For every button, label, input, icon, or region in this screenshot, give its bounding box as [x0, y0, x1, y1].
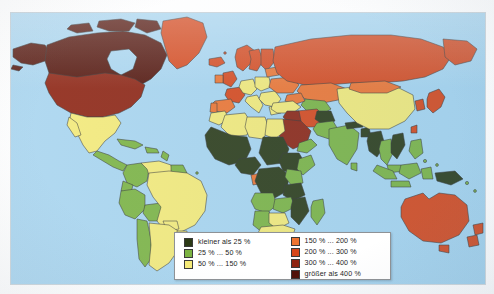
legend-item: 300 % ... 400 %: [291, 259, 390, 269]
region-aleutians: [11, 65, 23, 71]
island-dot-2: [436, 164, 439, 167]
island-dot-1: [423, 159, 426, 162]
region-greenland: [161, 17, 207, 69]
region-india: [329, 125, 359, 165]
region-lesser-antilles: [161, 151, 169, 161]
region-sri-lanka: [351, 163, 357, 171]
region-ireland: [215, 75, 223, 83]
island-dot-6: [224, 52, 227, 55]
legend-swatch-icon: [291, 237, 300, 246]
region-canada-arctic-3: [67, 23, 93, 33]
region-new-zealand-north: [473, 223, 483, 235]
region-canada-arctic-1: [97, 19, 135, 31]
legend-item: größer als 400 %: [291, 269, 390, 279]
legend-item: 50 % ... 150 %: [184, 259, 283, 269]
map-legend: kleiner als 25 % 25 % ... 50 % 50 % ... …: [174, 232, 391, 280]
region-new-zealand-south: [467, 235, 479, 247]
island-dot-4: [474, 190, 477, 193]
legend-label: 150 % ... 200 %: [305, 237, 357, 246]
legend-item: kleiner als 25 %: [184, 237, 283, 247]
legend-label: kleiner als 25 %: [198, 238, 250, 247]
legend-label: größer als 400 %: [305, 270, 361, 279]
legend-label: 300 % ... 400 %: [305, 259, 357, 268]
region-united-kingdom: [223, 71, 237, 87]
region-iceland: [209, 57, 225, 67]
region-angola: [251, 193, 277, 213]
legend-swatch-icon: [184, 249, 193, 258]
region-borneo: [399, 163, 421, 179]
region-madagascar: [311, 199, 325, 225]
legend-swatch-icon: [291, 259, 300, 268]
legend-item: 150 % ... 200 %: [291, 237, 390, 247]
legend-column-right: 150 % ... 200 % 200 % ... 300 % 300 % ..…: [283, 237, 390, 279]
legend-column-left: kleiner als 25 % 25 % ... 50 % 50 % ... …: [175, 237, 283, 279]
region-korea: [415, 99, 425, 111]
region-central-america: [93, 151, 127, 171]
region-australia: [401, 193, 469, 243]
region-java: [391, 181, 411, 187]
region-tasmania: [439, 245, 449, 253]
world-map-plate: kleiner als 25 % 25 % ... 50 % 50 % ... …: [11, 13, 485, 284]
region-chile: [137, 219, 151, 267]
region-japan: [427, 89, 445, 113]
legend-swatch-icon: [184, 260, 193, 269]
region-russia: [273, 35, 451, 85]
scanned-figure-page: kleiner als 25 % 25 % ... 50 % 50 % ... …: [0, 0, 494, 294]
region-taiwan: [411, 125, 417, 133]
region-papua-new-guinea: [435, 171, 463, 185]
region-peru: [119, 189, 145, 219]
region-philippines: [409, 139, 423, 159]
island-dot-5: [196, 172, 199, 175]
legend-item: 200 % ... 300 %: [291, 248, 390, 258]
region-sulawesi: [421, 167, 433, 179]
region-nigeria: [235, 157, 261, 175]
region-libya: [245, 117, 269, 139]
island-dot-3: [465, 181, 468, 184]
region-portugal: [210, 103, 217, 113]
legend-label: 25 % ... 50 %: [198, 249, 242, 258]
region-vietnam: [391, 133, 405, 159]
legend-item: 25 % ... 50 %: [184, 248, 283, 258]
legend-label: 200 % ... 300 %: [305, 248, 357, 257]
legend-swatch-icon: [184, 238, 193, 247]
region-cuba: [117, 139, 143, 149]
region-hispaniola: [145, 147, 159, 153]
legend-swatch-icon: [291, 248, 300, 257]
legend-swatch-icon: [291, 270, 300, 279]
legend-label: 50 % ... 150 %: [198, 260, 246, 269]
region-poland: [255, 77, 271, 91]
region-mozambique: [291, 197, 309, 225]
region-united-states: [45, 73, 145, 117]
region-canada-arctic-2: [135, 19, 161, 33]
